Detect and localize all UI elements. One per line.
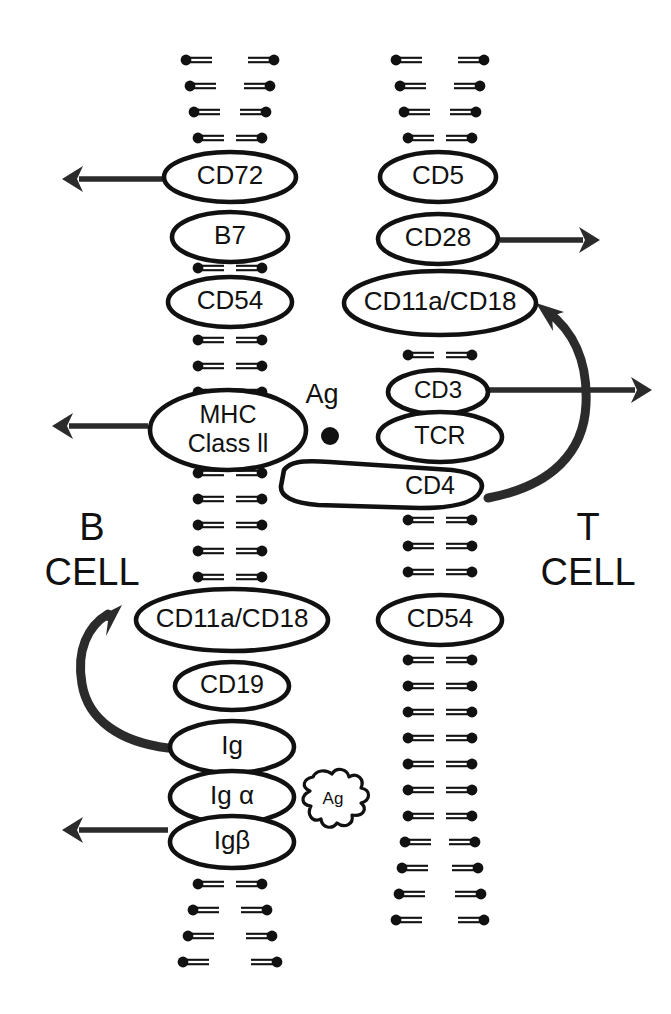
receptor-ig[interactable]: Igβ xyxy=(170,816,294,868)
membrane-row xyxy=(185,81,276,92)
t-cell-label-line2: CELL xyxy=(540,551,635,593)
igbeta-output-arrow xyxy=(62,817,168,843)
receptor-cd19[interactable]: CD19 xyxy=(175,662,289,710)
cd28-output-arrow xyxy=(500,227,600,253)
phospholipid xyxy=(244,81,275,92)
b-cell-label: BCELL xyxy=(44,506,139,593)
phospholipid xyxy=(403,567,434,578)
receptor-cd11a-cd18[interactable]: CD11a/CD18 xyxy=(136,589,328,651)
receptor-label: CD28 xyxy=(405,222,471,252)
receptor-label: CD5 xyxy=(412,160,464,190)
phospholipid xyxy=(251,957,282,968)
t-cell-curved-arrow xyxy=(488,303,586,498)
phospholipid xyxy=(236,133,267,144)
phospholipid xyxy=(403,133,434,144)
phospholipid xyxy=(193,520,224,531)
receptor-cd54[interactable]: CD54 xyxy=(168,277,292,327)
antigen-blob-label: Ag xyxy=(323,789,344,808)
receptor-label: Ig α xyxy=(210,780,254,810)
phospholipid xyxy=(193,263,224,274)
receptor-cd5[interactable]: CD5 xyxy=(380,152,496,202)
phospholipid xyxy=(193,879,224,890)
receptor-cd3[interactable]: CD3 xyxy=(388,370,488,414)
phospholipid xyxy=(399,107,430,118)
membrane-row xyxy=(403,567,478,578)
membrane-row xyxy=(193,361,268,372)
phospholipid xyxy=(248,55,279,66)
membrane-row xyxy=(403,655,478,666)
phospholipid xyxy=(181,55,212,66)
receptor-label: B7 xyxy=(214,220,246,250)
phospholipid xyxy=(391,915,422,926)
membrane-row xyxy=(193,335,268,346)
t-membrane-bottom xyxy=(391,655,490,926)
phospholipid xyxy=(193,133,224,144)
arrow-shaft xyxy=(488,387,635,393)
membrane-row xyxy=(394,889,487,900)
receptor-label: Igβ xyxy=(214,825,251,855)
receptor-label: CD19 xyxy=(200,670,264,698)
phospholipid xyxy=(391,55,422,66)
membrane-row xyxy=(178,957,283,968)
cell-interaction-diagram: CD72B7CD54MHCClass llCD11a/CD18CD19IgIg … xyxy=(0,0,671,1014)
receptor-mhc-class-ii[interactable]: MHCClass ll xyxy=(150,390,306,470)
phospholipid xyxy=(446,681,477,692)
t-membrane-top xyxy=(391,55,490,144)
receptor-label: MHCClass ll xyxy=(188,399,269,456)
membrane-row xyxy=(403,515,478,526)
receptor-b7[interactable]: B7 xyxy=(172,212,288,262)
phospholipid xyxy=(403,785,434,796)
receptor-label: CD54 xyxy=(197,285,263,315)
phospholipid xyxy=(446,515,477,526)
arrow-shaft xyxy=(500,237,583,243)
cd72-output-arrow xyxy=(62,166,163,192)
receptor-ig[interactable]: Ig xyxy=(170,721,294,773)
receptor-cd11a-cd18[interactable]: CD11a/CD18 xyxy=(344,271,536,335)
receptor-cd28[interactable]: CD28 xyxy=(378,214,498,264)
b-membrane-top xyxy=(181,55,280,144)
receptor-tcr[interactable]: TCR xyxy=(378,412,502,462)
receptor-label: CD54 xyxy=(407,603,473,633)
receptor-label: Ig xyxy=(221,730,243,760)
membrane-row xyxy=(403,133,478,144)
membrane-row xyxy=(395,81,486,92)
diagram-canvas: CD72B7CD54MHCClass llCD11a/CD18CD19IgIg … xyxy=(0,0,671,1014)
phospholipid xyxy=(193,546,224,557)
phospholipid xyxy=(246,931,277,942)
b-membrane-bottom xyxy=(178,879,283,968)
phospholipid xyxy=(403,681,434,692)
membrane-row xyxy=(193,546,268,557)
membrane-row xyxy=(403,759,478,770)
arrow-shaft xyxy=(79,827,168,833)
phospholipid xyxy=(236,335,267,346)
receptor-cd54[interactable]: CD54 xyxy=(378,595,502,645)
phospholipid xyxy=(185,81,216,92)
phospholipid xyxy=(403,655,434,666)
phospholipid xyxy=(403,350,434,361)
membrane-row xyxy=(399,107,482,118)
receptor-cd4[interactable]: CD4 xyxy=(281,461,482,508)
phospholipid xyxy=(193,335,224,346)
b-cell-label-line1: B xyxy=(79,506,104,548)
phospholipid xyxy=(446,541,477,552)
phospholipid xyxy=(236,879,267,890)
t-cell-label-line1: T xyxy=(576,506,599,548)
phospholipid xyxy=(446,785,477,796)
phospholipid xyxy=(236,361,267,372)
phospholipid xyxy=(450,107,481,118)
b-cell-label-line2: CELL xyxy=(44,551,139,593)
phospholipid xyxy=(458,915,489,926)
phospholipid xyxy=(403,541,434,552)
curved-arrow-shaft xyxy=(488,312,586,498)
cd3-output-arrow xyxy=(488,377,652,403)
phospholipid xyxy=(455,889,486,900)
phospholipid xyxy=(458,55,489,66)
membrane-row xyxy=(403,733,478,744)
membrane-row xyxy=(193,520,268,531)
phospholipid xyxy=(240,107,271,118)
receptor-cd72[interactable]: CD72 xyxy=(164,152,296,202)
phospholipid xyxy=(236,494,267,505)
phospholipid xyxy=(452,863,483,874)
membrane-row xyxy=(403,707,478,718)
t-membrane-mid1 xyxy=(403,350,478,361)
